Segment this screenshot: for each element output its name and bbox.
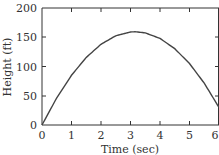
y-tick-labels: 0 50 100 150 200 bbox=[16, 2, 37, 132]
x-tick-label: 4 bbox=[157, 129, 164, 142]
x-tick-label: 6 bbox=[212, 129, 219, 142]
x-ticks bbox=[72, 8, 190, 125]
y-tick-label: 200 bbox=[16, 2, 37, 15]
x-tick-label: 2 bbox=[98, 129, 105, 142]
y-tick-label: 150 bbox=[16, 31, 37, 44]
x-tick-label: 3 bbox=[127, 129, 134, 142]
y-tick-label: 0 bbox=[30, 119, 37, 132]
y-axis-label: Height (ft) bbox=[1, 38, 14, 97]
chart: 0 1 2 3 4 5 6 0 50 100 150 200 Time (sec… bbox=[0, 0, 219, 155]
y-tick-label: 50 bbox=[23, 90, 37, 103]
x-tick-labels: 0 1 2 3 4 5 6 bbox=[39, 129, 219, 142]
x-tick-label: 1 bbox=[68, 129, 75, 142]
x-tick-label: 5 bbox=[186, 129, 193, 142]
x-tick-label: 0 bbox=[39, 129, 46, 142]
x-axis-label: Time (sec) bbox=[101, 143, 159, 155]
height-curve bbox=[42, 32, 219, 125]
y-tick-label: 100 bbox=[16, 61, 37, 74]
